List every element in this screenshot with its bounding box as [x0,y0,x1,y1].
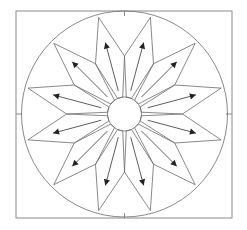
arrow-icon [141,131,176,166]
compass-point [125,17,154,98]
outer-circle [22,11,228,217]
tick-marks [16,11,232,218]
arrow-icon [72,131,107,166]
arrow-icon [72,62,107,97]
compass-point [28,85,109,114]
compass-point [125,130,154,211]
compass-point [96,17,125,98]
square-frame [16,11,232,218]
arrow-icon [141,62,176,97]
compass-point [96,130,125,211]
compass-point [140,114,221,143]
compass-point [140,85,221,114]
compass-points [28,17,221,210]
center-circle [108,97,142,131]
compass-diagram [0,0,247,230]
compass-point [28,114,109,143]
